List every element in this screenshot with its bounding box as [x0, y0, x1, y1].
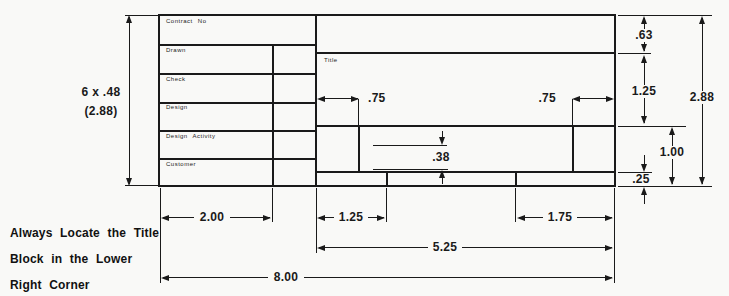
strip-cell-divider-left — [386, 173, 388, 186]
engineering-drawing-title-block-diagram: Contract No Drawn Check Design Design Ac… — [0, 0, 729, 296]
dim-inset-right: .75 — [530, 92, 556, 105]
dim-title-area: 1.25 — [627, 85, 661, 98]
row-divider — [160, 73, 315, 75]
arrowhead-down — [699, 177, 705, 185]
extension-line — [618, 15, 712, 16]
extension-line — [572, 99, 573, 127]
extension-line — [614, 188, 615, 283]
row-label-drawn: Drawn — [166, 47, 186, 53]
arrowhead-down — [641, 44, 647, 52]
arrowhead-right — [605, 215, 613, 221]
extension-line — [272, 188, 273, 222]
row-label-customer: Customer — [166, 161, 196, 167]
row-label-design: Design — [166, 104, 188, 110]
title-strip-divider — [317, 52, 614, 54]
row-label-design-activity: Design Activity — [166, 133, 216, 139]
dim-guide: .38 — [427, 151, 455, 164]
row-label-contract-no: Contract No — [166, 18, 207, 24]
dimension-line — [644, 194, 645, 204]
extension-line — [515, 188, 516, 222]
dim-band: 1.00 — [655, 146, 689, 159]
arrowhead-down — [641, 164, 647, 172]
dim-left-col: 2.00 — [194, 211, 230, 224]
arrowhead-left — [161, 275, 169, 281]
arrowhead-down — [126, 178, 132, 186]
arrowhead-up — [641, 55, 647, 63]
arrowhead-right — [263, 215, 271, 221]
extension-line — [618, 186, 712, 187]
note-line-3: Right Corner — [10, 278, 90, 292]
extension-line — [618, 53, 651, 54]
strip-cell-divider-right — [515, 173, 517, 186]
arrowhead-left — [572, 96, 580, 102]
dim-inset-left: .75 — [368, 92, 386, 105]
title-band-divider — [317, 125, 614, 127]
guide-line — [373, 145, 447, 146]
arrowhead-down — [669, 177, 675, 185]
arrowhead-up — [699, 16, 705, 24]
extension-line — [618, 126, 686, 127]
note-line-2: Block in the Lower — [10, 252, 132, 266]
bottom-strip-divider — [317, 171, 614, 173]
arrowhead-up — [126, 15, 132, 23]
guide-line — [373, 169, 448, 170]
row-divider — [160, 158, 315, 160]
title-block — [315, 14, 616, 187]
arrowhead-down — [439, 137, 445, 145]
row-divider — [160, 130, 315, 132]
signature-column-divider — [272, 44, 274, 186]
dim-title-width: 5.25 — [428, 241, 462, 254]
dim-strip-top: .63 — [629, 29, 659, 42]
arrowhead-down — [641, 116, 647, 124]
arrowhead-left — [317, 96, 325, 102]
note-line-1: Always Locate the Title — [10, 226, 159, 240]
dimension-line — [319, 247, 612, 248]
dim-strip-bottom: .25 — [626, 173, 656, 186]
dim-cell-left: 1.25 — [334, 211, 368, 224]
arrowhead-right — [605, 245, 613, 251]
arrowhead-right — [606, 96, 614, 102]
arrowhead-left — [161, 215, 169, 221]
title-label: Title — [324, 57, 338, 63]
arrowhead-up — [641, 16, 647, 24]
dimension-line — [129, 17, 130, 184]
arrowhead-up — [669, 127, 675, 135]
band-cell-divider-left — [358, 127, 360, 171]
dim-cell-right: 1.75 — [543, 211, 577, 224]
dimension-line — [163, 277, 612, 278]
arrowhead-left — [317, 215, 325, 221]
band-cell-divider-right — [572, 127, 574, 171]
row-label-check: Check — [166, 76, 186, 82]
dim-overall-height: 2.88 — [685, 91, 719, 104]
extension-line — [160, 188, 161, 283]
dim-height-count: 6 x .48 — [76, 86, 126, 99]
arrowhead-right — [605, 275, 613, 281]
arrowhead-left — [317, 245, 325, 251]
row-divider — [160, 44, 315, 46]
dim-height-total: (2.88) — [76, 105, 126, 118]
dim-overall-width: 8.00 — [268, 271, 304, 284]
extension-line — [358, 99, 359, 127]
arrowhead-left — [517, 215, 525, 221]
arrowhead-right — [377, 215, 385, 221]
extension-line — [386, 188, 387, 222]
dimension-line — [442, 177, 443, 184]
